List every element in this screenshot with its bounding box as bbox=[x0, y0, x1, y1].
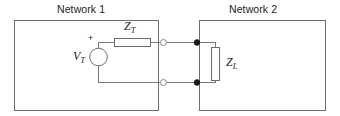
impedance-zt-label: ZT bbox=[124, 19, 135, 35]
impedance-zl-label-subscript: L bbox=[233, 61, 238, 71]
voltage-source-vt-label-subscript: T bbox=[80, 55, 85, 65]
network-2-title: Network 2 bbox=[229, 3, 277, 15]
network-1-box bbox=[15, 21, 159, 111]
impedance-zl-body bbox=[212, 48, 220, 81]
voltage-source-vt-label: VT bbox=[73, 49, 85, 65]
terminal-bottom bbox=[161, 80, 167, 86]
impedance-zl-label: ZL bbox=[226, 55, 237, 71]
network-1-title: Network 1 bbox=[57, 3, 105, 15]
impedance-zt-label-subscript: T bbox=[131, 25, 136, 35]
circuit-svg bbox=[0, 0, 340, 116]
node-bottom bbox=[194, 80, 200, 86]
impedance-zt-label-text: Z bbox=[124, 19, 131, 33]
voltage-source-plus-sign: + bbox=[88, 33, 93, 43]
impedance-zt-body bbox=[115, 39, 151, 47]
impedance-zl-label-text: Z bbox=[226, 55, 233, 69]
circuit-diagram: Network 1 Network 2 ZT ZL VT + bbox=[0, 0, 340, 116]
terminal-top bbox=[161, 40, 167, 46]
node-top bbox=[194, 40, 200, 46]
voltage-source-vt-symbol bbox=[90, 48, 108, 66]
